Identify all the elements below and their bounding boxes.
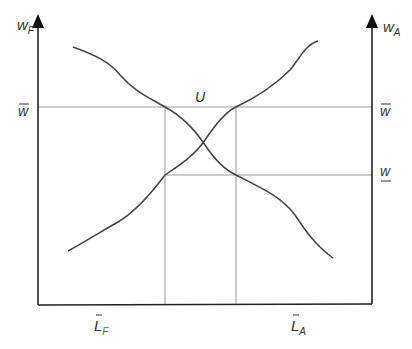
diagram-canvas: wF wA w w w U LF LA	[0, 0, 412, 349]
curve-a-demand	[68, 41, 318, 251]
right-axis-arrow-icon	[366, 14, 378, 28]
curve-f-demand	[73, 47, 333, 258]
right-axis-label: wA	[383, 18, 401, 38]
right-wage-low-label: w	[380, 163, 391, 179]
left-axis-label: wF	[17, 16, 35, 36]
left-wage-label: w	[18, 103, 29, 119]
intersection-label-u: U	[195, 89, 206, 105]
bottom-axis	[38, 304, 372, 305]
right-wage-high-label: w	[380, 103, 391, 119]
bottom-left-label: LF	[94, 317, 109, 337]
bottom-right-label: LA	[291, 317, 306, 337]
